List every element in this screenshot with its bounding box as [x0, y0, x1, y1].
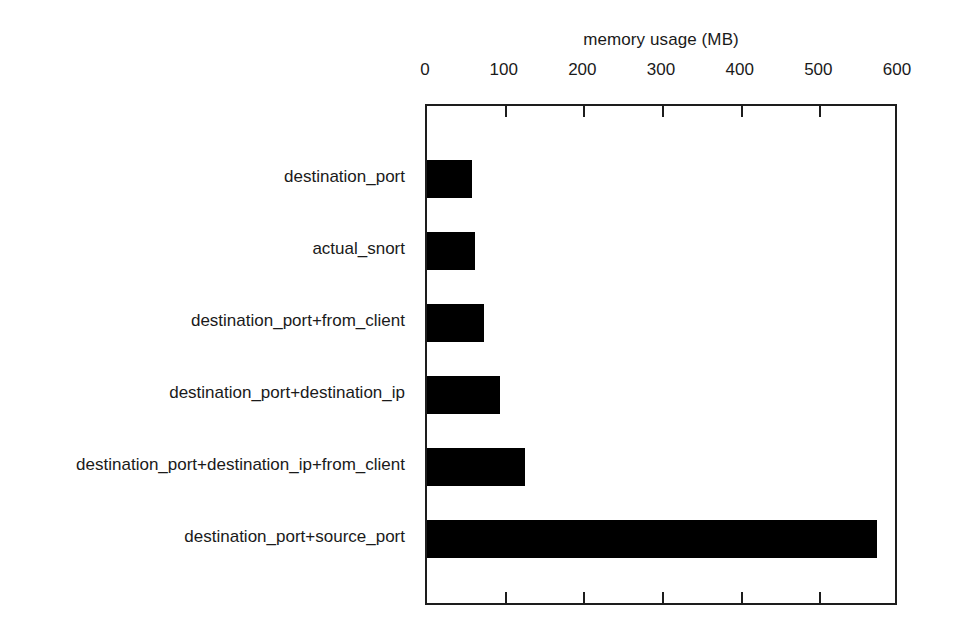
x-tick-label-200: 200	[568, 60, 596, 80]
x-tick-label-600: 600	[883, 60, 911, 80]
x-tick-label-500: 500	[804, 60, 832, 80]
bar-2	[427, 304, 484, 342]
bar-5	[427, 520, 877, 558]
chart-title: memory usage (MB)	[425, 30, 897, 50]
bar-3	[427, 376, 500, 414]
x-axis-tick-labels: 0100200300400500600	[425, 60, 897, 82]
x-tick-mark-bottom-500	[819, 592, 821, 603]
x-tick-mark-bottom-400	[741, 592, 743, 603]
x-tick-label-0: 0	[420, 60, 429, 80]
x-tick-label-300: 300	[647, 60, 675, 80]
x-tick-label-400: 400	[725, 60, 753, 80]
x-tick-mark-top-400	[741, 106, 743, 117]
x-tick-mark-top-500	[819, 106, 821, 117]
bar-chart-figure: memory usage (MB) 0100200300400500600 de…	[0, 0, 960, 635]
y-axis-category-labels: destination_portactual_snortdestination_…	[0, 104, 415, 605]
x-tick-mark-top-300	[662, 106, 664, 117]
x-tick-mark-top-100	[505, 106, 507, 117]
x-tick-mark-bottom-300	[662, 592, 664, 603]
y-category-label-3: destination_port+destination_ip	[169, 383, 405, 403]
y-category-label-5: destination_port+source_port	[184, 527, 405, 547]
bar-1	[427, 232, 475, 270]
x-tick-mark-bottom-100	[505, 592, 507, 603]
x-tick-mark-top-200	[583, 106, 585, 117]
y-category-label-1: actual_snort	[312, 239, 405, 259]
x-tick-label-100: 100	[489, 60, 517, 80]
x-tick-mark-bottom-200	[583, 592, 585, 603]
y-category-label-4: destination_port+destination_ip+from_cli…	[76, 455, 405, 475]
y-category-label-0: destination_port	[284, 167, 405, 187]
plot-area	[425, 104, 897, 605]
bar-0	[427, 160, 472, 198]
bar-4	[427, 448, 525, 486]
y-category-label-2: destination_port+from_client	[191, 311, 405, 331]
